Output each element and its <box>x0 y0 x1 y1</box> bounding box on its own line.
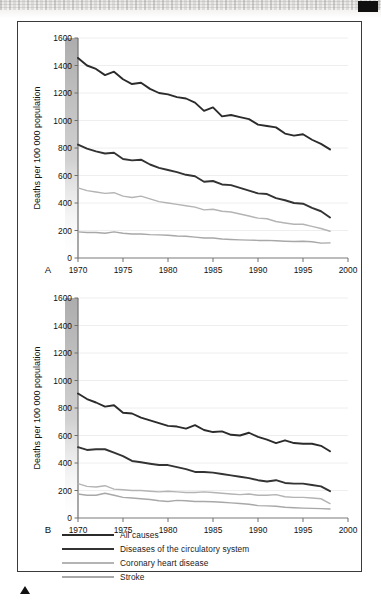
legend-label-chd: Coronary heart disease <box>120 558 208 568</box>
x-tick-label-1980: 1980 <box>159 265 178 275</box>
legend-label-stroke: Stroke <box>120 572 145 582</box>
y-tick-label-600: 600 <box>58 171 72 181</box>
legend-item-chd: Coronary heart disease <box>62 556 342 570</box>
chart-a-svg: 0200400600800100012001400160019701975198… <box>18 22 363 284</box>
y-tick-label-800: 800 <box>58 143 72 153</box>
x-tick-label-1995: 1995 <box>294 265 313 275</box>
series-line-stroke <box>78 493 330 509</box>
y-tick-label-400: 400 <box>58 198 72 208</box>
y-tick-label-1400: 1400 <box>53 61 72 71</box>
series-line-coronary-heart-disease <box>78 484 330 504</box>
figure-frame: 0200400600800100012001400160019701975198… <box>17 21 362 572</box>
figure-legend: All causes Diseases of the circulatory s… <box>62 528 342 584</box>
scan-fade-strip <box>0 10 381 18</box>
panel-letter: A <box>45 264 52 275</box>
legend-item-stroke: Stroke <box>62 570 342 584</box>
y-axis-title: Deaths per 100 000 population <box>32 346 42 469</box>
legend-item-all-causes: All causes <box>62 528 342 542</box>
y-tick-label-1000: 1000 <box>53 376 72 386</box>
legend-swatch-chd-icon <box>62 562 114 564</box>
x-tick-label-1990: 1990 <box>249 265 268 275</box>
x-tick-label-1985: 1985 <box>204 265 223 275</box>
series-line-all-causes <box>78 394 330 452</box>
y-tick-label-1600: 1600 <box>53 293 72 303</box>
y-tick-label-400: 400 <box>58 458 72 468</box>
legend-swatch-stroke-icon <box>62 576 114 578</box>
y-tick-label-800: 800 <box>58 403 72 413</box>
y-tick-label-1000: 1000 <box>53 116 72 126</box>
y-tick-label-1200: 1200 <box>53 88 72 98</box>
page-bottom-triangle-icon <box>20 586 30 594</box>
series-line-stroke <box>78 232 330 243</box>
y-tick-label-0: 0 <box>67 513 72 523</box>
y-tick-label-1600: 1600 <box>53 33 72 43</box>
chart-b-svg: 0200400600800100012001400160019701975198… <box>18 284 363 534</box>
legend-swatch-circulatory-icon <box>62 548 114 550</box>
y-axis-title: Deaths per 100 000 population <box>32 86 42 209</box>
y-tick-label-200: 200 <box>58 486 72 496</box>
x-tick-label-2000: 2000 <box>339 265 358 275</box>
x-tick-label-1970: 1970 <box>69 265 88 275</box>
y-tick-label-200: 200 <box>58 226 72 236</box>
panel-letter: B <box>45 524 51 534</box>
y-tick-label-600: 600 <box>58 431 72 441</box>
series-line-diseases-of-the-circulatory-system <box>78 447 330 491</box>
series-line-all-causes <box>78 58 330 149</box>
y-tick-label-1200: 1200 <box>53 348 72 358</box>
page-corner-marker <box>358 1 378 12</box>
y-tick-label-0: 0 <box>67 253 72 263</box>
series-line-diseases-of-the-circulatory-system <box>78 145 330 218</box>
chart-panel-b: 0200400600800100012001400160019701975198… <box>18 284 363 534</box>
y-tick-label-1400: 1400 <box>53 321 72 331</box>
series-line-coronary-heart-disease <box>78 188 330 231</box>
x-tick-label-1975: 1975 <box>114 265 133 275</box>
chart-panel-a: 0200400600800100012001400160019701975198… <box>18 22 363 284</box>
legend-label-all-causes: All causes <box>120 530 159 540</box>
legend-swatch-all-causes-icon <box>62 534 114 536</box>
legend-item-circulatory: Diseases of the circulatory system <box>62 542 342 556</box>
legend-label-circulatory: Diseases of the circulatory system <box>120 544 249 554</box>
